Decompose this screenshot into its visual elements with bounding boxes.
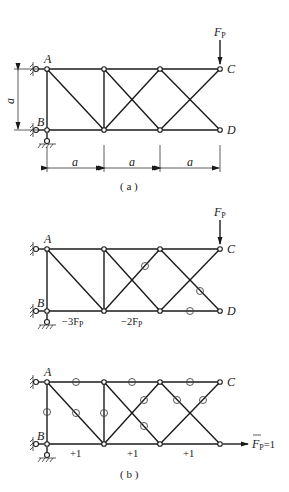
member-force-3: +1: [183, 448, 194, 459]
dim-height-label: a: [3, 98, 17, 104]
node-label-d: D: [226, 123, 236, 137]
member-force-2: +1: [127, 448, 138, 459]
node-label-a: A: [43, 232, 52, 246]
node-label-c: C: [227, 242, 236, 256]
caption-a: ( a ): [120, 180, 138, 193]
truss-a: A B C D FP a a a a ( a ): [3, 25, 236, 193]
truss-b2: A B C FP=1 +1 +1 +1 ( b ): [30, 365, 275, 481]
node-label-a: A: [43, 365, 52, 379]
load-label: FP: [213, 205, 226, 220]
node-label-d: D: [226, 304, 236, 318]
node-label-c: C: [227, 375, 236, 389]
dim-span-3: a: [187, 155, 193, 169]
support-a-icon: [30, 375, 44, 389]
node-label-a: A: [43, 52, 52, 66]
member-force-1: −3FP: [62, 316, 84, 329]
load-label: FP: [213, 25, 226, 40]
member-force-2: −2FP: [121, 316, 143, 329]
node-label-b: B: [37, 115, 45, 129]
member-force-1: +1: [70, 448, 81, 459]
node-label-b: B: [37, 429, 45, 443]
truss-figure: A B C D FP a a a a ( a ): [0, 0, 289, 492]
node-label-c: C: [227, 62, 236, 76]
support-a-icon: [30, 242, 44, 256]
dim-span-2: a: [129, 155, 135, 169]
dim-span-1: a: [72, 155, 78, 169]
caption-b: ( b ): [120, 468, 139, 481]
node-label-b: B: [37, 296, 45, 310]
truss-b1: A B C D FP −3FP −2FP: [30, 205, 236, 329]
unit-load-label: FP=1: [251, 437, 275, 452]
